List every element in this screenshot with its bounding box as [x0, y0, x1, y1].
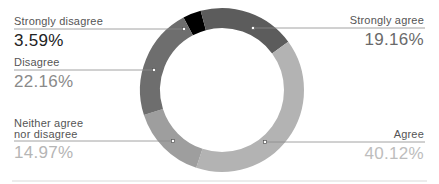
value-disagree: 22.16%: [14, 73, 73, 91]
marker-strongly-agree: [252, 27, 255, 30]
label-disagree: Disagree: [14, 56, 60, 68]
value-agree: 40.12%: [365, 145, 424, 163]
label-neither-line2: nor disagree: [14, 128, 78, 140]
segment-agree: [199, 48, 294, 162]
segment-strongly-agree: [203, 18, 280, 48]
value-strongly-disagree: 3.59%: [14, 32, 64, 50]
segment-neither-agree-nor-disagree: [153, 112, 199, 158]
label-agree: Agree: [394, 128, 424, 140]
label-strongly-disagree: Strongly disagree: [14, 15, 103, 27]
marker-agree: [264, 141, 267, 144]
marker-disagree: [153, 69, 156, 72]
label-strongly-agree: Strongly agree: [350, 14, 424, 26]
marker-neither: [172, 140, 175, 143]
segment-strongly-disagree: [188, 20, 203, 26]
marker-strongly-disagree: [183, 28, 186, 31]
value-neither: 14.97%: [14, 144, 73, 162]
value-strongly-agree: 19.16%: [365, 31, 424, 49]
